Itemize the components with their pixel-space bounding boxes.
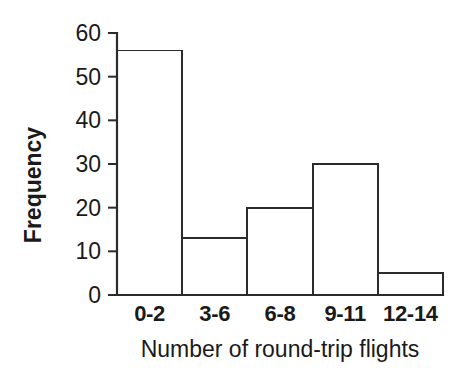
histogram-bar xyxy=(182,238,247,295)
y-tick-label: 0 xyxy=(88,282,101,308)
x-tick-label: 12-14 xyxy=(383,301,439,326)
x-tick-label: 0-2 xyxy=(134,301,165,326)
y-tick-label: 60 xyxy=(75,20,101,46)
x-tick-label: 6-8 xyxy=(265,301,296,326)
y-tick-label: 50 xyxy=(75,64,101,90)
x-tick-label: 9-11 xyxy=(324,301,366,326)
figure-background xyxy=(0,0,472,387)
histogram-figure: 0102030405060 0-23-66-89-1112-14 Number … xyxy=(0,0,472,387)
y-tick-label: 20 xyxy=(75,195,101,221)
histogram-bar xyxy=(117,50,182,295)
x-axis-title: Number of round-trip flights xyxy=(141,336,420,362)
y-axis-title: Frequency xyxy=(20,127,46,244)
y-tick-label: 40 xyxy=(75,107,101,133)
histogram-bar xyxy=(247,208,312,295)
y-tick-label: 10 xyxy=(75,238,101,264)
y-tick-label: 30 xyxy=(75,151,101,177)
histogram-bar xyxy=(378,273,443,295)
histogram-plot: 0102030405060 0-23-66-89-1112-14 Number … xyxy=(0,0,472,387)
x-tick-label: 3-6 xyxy=(199,301,230,326)
histogram-bar xyxy=(313,164,378,295)
